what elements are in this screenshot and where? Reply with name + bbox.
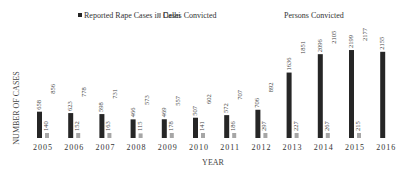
x-tick-2011: 2011 bbox=[220, 143, 240, 152]
data-label-1-2009: 178 bbox=[167, 121, 174, 131]
data-label-1-2006: 152 bbox=[73, 121, 80, 131]
data-label-0-2015: 2199 bbox=[347, 35, 354, 48]
bar-cases-convicted-2008 bbox=[139, 133, 143, 138]
bar-cases-convicted-2015 bbox=[357, 133, 361, 138]
data-label-2-2013: 1851 bbox=[299, 41, 306, 54]
data-label-1-2014: 267 bbox=[323, 121, 330, 132]
data-label-2-2006: 778 bbox=[80, 87, 87, 97]
data-label-1-2008: 115 bbox=[136, 121, 143, 131]
bar-cases-convicted-2012 bbox=[263, 133, 267, 138]
legend: Reported Rape Cases in DelhiCases Convic… bbox=[78, 11, 344, 20]
bar-cases-convicted-2011 bbox=[232, 133, 236, 138]
data-label-2-2008: 573 bbox=[143, 95, 150, 105]
x-tick-2014: 2014 bbox=[314, 143, 334, 152]
data-label-2-2012: 892 bbox=[267, 83, 274, 93]
x-axis-ticks: 2005200620072008200920102011201220132014… bbox=[33, 143, 396, 152]
data-label-1-2007: 163 bbox=[104, 121, 111, 131]
x-tick-2010: 2010 bbox=[189, 143, 209, 152]
data-label-2-2010: 602 bbox=[205, 94, 212, 104]
data-label-0-2006: 623 bbox=[66, 101, 73, 111]
data-labels: 6581408566231527785981637314661155734691… bbox=[35, 27, 385, 131]
bar-cases-convicted-2010 bbox=[201, 133, 205, 138]
bar-reported-rape-cases-in-delhi-2016 bbox=[380, 52, 385, 138]
data-label-1-2005: 140 bbox=[42, 121, 49, 131]
x-tick-2006: 2006 bbox=[64, 143, 84, 152]
data-label-2-2011: 707 bbox=[236, 89, 243, 100]
data-label-0-2013: 1636 bbox=[285, 57, 292, 71]
data-label-1-2011: 186 bbox=[229, 121, 236, 132]
x-tick-2013: 2013 bbox=[283, 143, 303, 152]
data-label-2-2009: 557 bbox=[174, 95, 181, 106]
bar-cases-convicted-2005 bbox=[45, 133, 49, 138]
x-tick-2016: 2016 bbox=[376, 143, 396, 152]
bar-cases-convicted-2014 bbox=[326, 133, 330, 138]
data-label-2-2014: 2105 bbox=[330, 31, 337, 44]
bar-cases-convicted-2013 bbox=[295, 133, 299, 138]
data-label-2-2007: 731 bbox=[111, 89, 118, 99]
legend-label-2: Persons Convicted bbox=[284, 11, 344, 20]
data-label-0-2010: 507 bbox=[191, 105, 198, 116]
y-axis-title: NUMBER OF CASES bbox=[12, 71, 21, 144]
x-tick-2012: 2012 bbox=[251, 143, 271, 152]
data-label-0-2005: 658 bbox=[35, 100, 42, 110]
x-tick-2009: 2009 bbox=[158, 143, 178, 152]
data-label-0-2009: 469 bbox=[160, 107, 167, 117]
data-label-1-2010: 141 bbox=[198, 121, 205, 131]
x-tick-2007: 2007 bbox=[95, 143, 115, 152]
data-label-0-2007: 598 bbox=[97, 102, 104, 112]
legend-label-1: Cases Convicted bbox=[163, 11, 217, 20]
data-label-1-2012: 297 bbox=[260, 121, 267, 132]
bars bbox=[37, 50, 385, 138]
x-tick-2008: 2008 bbox=[127, 143, 147, 152]
legend-swatch-1 bbox=[157, 13, 161, 17]
x-axis-title: YEAR bbox=[202, 158, 224, 167]
data-label-2-2005: 856 bbox=[49, 83, 56, 94]
bar-cases-convicted-2007 bbox=[107, 133, 111, 138]
legend-swatch-0 bbox=[78, 13, 82, 17]
data-label-1-2015: 215 bbox=[354, 121, 361, 131]
data-label-0-2014: 2096 bbox=[316, 38, 323, 52]
data-label-0-2008: 466 bbox=[129, 107, 136, 118]
chart: Reported Rape Cases in DelhiCases Convic… bbox=[0, 0, 418, 171]
data-label-1-2013: 227 bbox=[292, 121, 299, 132]
data-label-0-2011: 572 bbox=[222, 103, 229, 113]
data-label-2-2015: 2177 bbox=[361, 27, 368, 41]
x-tick-2015: 2015 bbox=[345, 143, 365, 152]
data-label-0-2012: 706 bbox=[253, 97, 260, 108]
bar-cases-convicted-2006 bbox=[76, 133, 80, 138]
bar-cases-convicted-2009 bbox=[170, 133, 174, 138]
data-label-0-2016: 2155 bbox=[378, 37, 385, 50]
x-tick-2005: 2005 bbox=[33, 143, 53, 152]
